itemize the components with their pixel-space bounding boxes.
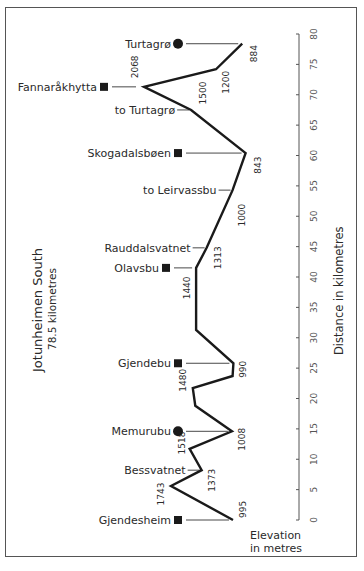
axis-tick-label: 80	[309, 28, 319, 40]
x-axis-label-line1: Elevation	[250, 529, 301, 542]
place-label: Turtagrø	[124, 38, 171, 51]
elevation-profile-chart: 05101520253035404550556065707580 9951743…	[0, 0, 364, 571]
elevation-label: 1743	[156, 483, 166, 506]
axis-tick-label: 40	[309, 271, 319, 283]
elevation-label: 1008	[237, 428, 247, 451]
hut-square-icon	[174, 516, 182, 524]
place-label: Rauddalsvatnet	[104, 242, 191, 255]
place-label: Memurubu	[112, 425, 171, 438]
axis-tick-label: 20	[309, 393, 319, 405]
axis-tick-label: 60	[309, 150, 319, 162]
hut-square-icon	[174, 149, 182, 157]
place-label: Olavsbu	[114, 262, 159, 275]
elevation-label: 1440	[182, 276, 192, 299]
elevation-label: 1313	[213, 246, 223, 269]
place-label: Gjendebu	[118, 357, 171, 370]
axis-tick-label: 45	[309, 241, 319, 252]
axis-tick-label: 65	[309, 119, 319, 130]
elevation-label: 1373	[207, 469, 217, 492]
chart-title: Jotunheimen South	[30, 248, 45, 373]
hut-circle-icon	[173, 426, 183, 436]
x-axis-label-line2: in metres	[250, 542, 302, 555]
axis-tick-label: 50	[309, 210, 319, 222]
hut-square-icon	[174, 359, 182, 367]
place-label: to Leirvassbu	[143, 184, 217, 197]
y-axis-label: Distance in kilometres	[332, 226, 346, 355]
hut-circle-icon	[173, 39, 183, 49]
elevation-label: 990	[238, 360, 248, 377]
axis-tick-label: 70	[309, 89, 319, 101]
axis-tick-label: 15	[309, 423, 319, 434]
place-label: Gjendesheim	[99, 514, 171, 527]
axis-tick-label: 35	[309, 302, 319, 313]
elevation-label: 995	[238, 501, 248, 518]
elevation-label: 1200	[221, 71, 231, 94]
axis-tick-label: 10	[309, 453, 319, 465]
axis-tick-label: 75	[309, 59, 319, 70]
place-label: to Turtagrø	[115, 104, 176, 117]
axis-tick-label: 30	[309, 332, 319, 344]
axis-tick-label: 55	[309, 180, 319, 191]
hut-square-icon	[162, 264, 170, 272]
elevation-label: 1000	[237, 203, 247, 226]
hut-square-icon	[100, 83, 108, 91]
distance-axis: 05101520253035404550556065707580	[296, 28, 319, 523]
axis-tick-label: 0	[309, 517, 319, 523]
elevation-label: 2068	[130, 55, 140, 78]
place-label: Fannaråkhytta	[18, 81, 97, 94]
elevation-label: 1500	[198, 81, 208, 104]
place-label: Skogadalsbøen	[88, 147, 171, 160]
chart-subtitle: 78.5 kilometres	[46, 268, 58, 350]
elevation-label: 1480	[178, 368, 188, 391]
axis-tick-label: 5	[309, 487, 319, 493]
axis-tick-label: 25	[309, 362, 319, 373]
elevation-label: 843	[253, 156, 263, 173]
place-label: Bessvatnet	[124, 464, 186, 477]
elevation-label: 884	[249, 45, 259, 62]
